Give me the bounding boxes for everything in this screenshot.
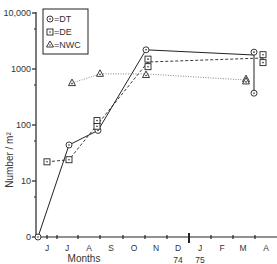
y-tick-label: 10: [21, 176, 31, 186]
x-tick-label: D: [175, 243, 181, 253]
data-point-de: [145, 56, 151, 62]
x-tick-label: F: [219, 243, 224, 253]
y-axis: [32, 12, 36, 237]
year-label: 75: [195, 255, 205, 264]
legend-label: =DE: [54, 27, 72, 37]
x-tick-label: J: [45, 243, 49, 253]
data-point-dt: [35, 234, 41, 240]
year-label: 74: [173, 255, 183, 264]
data-point-dt: [66, 142, 72, 148]
x-tick-label: A: [86, 243, 92, 253]
x-tick-label: J: [198, 243, 202, 253]
legend: =DT =DE =NWC: [43, 9, 88, 54]
y-axis-label: Number / m²: [4, 132, 15, 188]
x-axis: [36, 233, 277, 243]
data-point-dt: [251, 90, 257, 96]
y-tick-label: 0: [26, 232, 31, 242]
data-point-de: [145, 64, 151, 70]
data-point-nwc: [97, 70, 104, 77]
x-tick-label: O: [131, 243, 138, 253]
data-point-de: [94, 118, 100, 124]
x-tick-label: J: [65, 243, 69, 253]
series-markers: [35, 47, 266, 240]
y-tick-label: 1000: [11, 64, 31, 74]
data-point-dt: [251, 49, 257, 55]
data-point-de: [260, 60, 266, 66]
data-point-de: [66, 157, 72, 163]
data-point-dt: [143, 47, 149, 53]
data-point-de: [94, 123, 100, 129]
legend-label: =NWC: [54, 40, 81, 50]
x-tick-label: A: [263, 243, 269, 253]
y-tick-labels: 10,000 1000 100 10 0: [3, 8, 31, 242]
x-axis-label: Months: [68, 253, 101, 264]
y-tick-label: 10,000: [3, 8, 31, 18]
x-tick-label: M: [239, 243, 246, 253]
series-line-de: [47, 58, 263, 162]
data-point-de: [260, 52, 266, 58]
legend-label: =DT: [54, 14, 72, 24]
y-tick-label: 100: [16, 120, 31, 130]
x-tick-label: S: [108, 243, 114, 253]
data-point-de: [44, 159, 50, 165]
chart: 10,000 1000 100 10 0 Number / m² J J A S…: [0, 0, 277, 264]
x-tick-label: N: [153, 243, 159, 253]
